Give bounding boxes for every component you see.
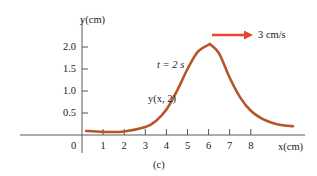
y-tick-label: 1.5 — [50, 64, 76, 75]
y-tick-label: 1.0 — [50, 86, 76, 97]
x-tick-label: 7 — [224, 141, 236, 152]
speed-label: 3 cm/s — [258, 30, 286, 41]
time-label: t = 2 s — [157, 60, 184, 71]
y-tick-label: 2.0 — [50, 42, 76, 53]
x-tick-label: 2 — [118, 141, 130, 152]
x-tick-label: 8 — [245, 141, 257, 152]
y-ticks — [82, 47, 88, 113]
y-tick-label: 0.5 — [50, 108, 76, 119]
x-tick-label: 5 — [182, 141, 194, 152]
x-tick-label: 1 — [97, 141, 109, 152]
x-tick-label: 3 — [139, 141, 151, 152]
wave-chart — [0, 0, 317, 176]
caption: (c) — [153, 160, 165, 171]
x-tick-label: 6 — [203, 141, 215, 152]
origin-label: 0 — [71, 141, 76, 152]
x-tick-label: 4 — [160, 141, 172, 152]
velocity-arrow-icon — [212, 31, 253, 40]
x-axis-label: x(cm) — [278, 142, 303, 153]
wave-curve — [86, 44, 293, 132]
y-axis-label: y(cm) — [80, 15, 105, 26]
curve-label: y(x, 2) — [148, 94, 176, 105]
